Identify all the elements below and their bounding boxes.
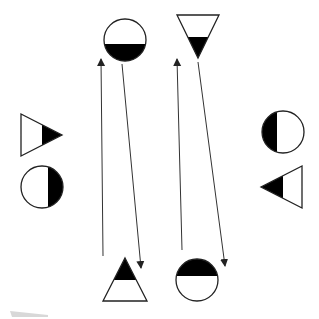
left-circle-shape — [21, 162, 68, 212]
bottom-triangle-shape — [100, 254, 150, 301]
arrow-down-right-pair — [198, 62, 225, 266]
bottom-circle-shape — [172, 255, 222, 301]
top-circle-shape — [100, 19, 150, 64]
top-triangle-shape — [175, 15, 225, 62]
arrow-up-right-pair — [177, 59, 182, 250]
arrow-up-left-pair — [101, 59, 103, 256]
scan-smudge — [10, 311, 48, 317]
right-circle-shape — [258, 107, 304, 157]
arrow-down-left-pair — [122, 64, 141, 268]
diagram-svg — [0, 0, 319, 319]
left-triangle-shape — [21, 110, 67, 160]
diagram-canvas — [0, 0, 319, 319]
right-triangle-shape — [256, 162, 302, 212]
